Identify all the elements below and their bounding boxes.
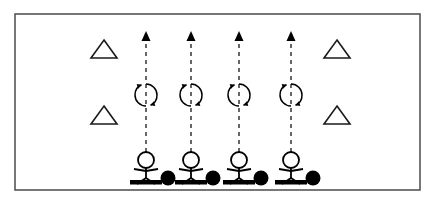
hockey-stick-icon [275, 180, 307, 185]
hockey-stick-icon [223, 180, 255, 185]
puck-icon [306, 171, 321, 186]
player-head-icon [138, 152, 154, 168]
puck-icon [254, 171, 269, 186]
hockey-stick-icon [175, 180, 207, 185]
drill-diagram [0, 0, 435, 204]
player-head-icon [183, 152, 199, 168]
puck-icon [161, 171, 176, 186]
rink-boundary [15, 14, 420, 190]
hockey-stick-icon [130, 180, 162, 185]
player-head-icon [231, 152, 247, 168]
puck-icon [206, 171, 221, 186]
player-head-icon [283, 152, 299, 168]
drill-canvas [0, 0, 435, 204]
